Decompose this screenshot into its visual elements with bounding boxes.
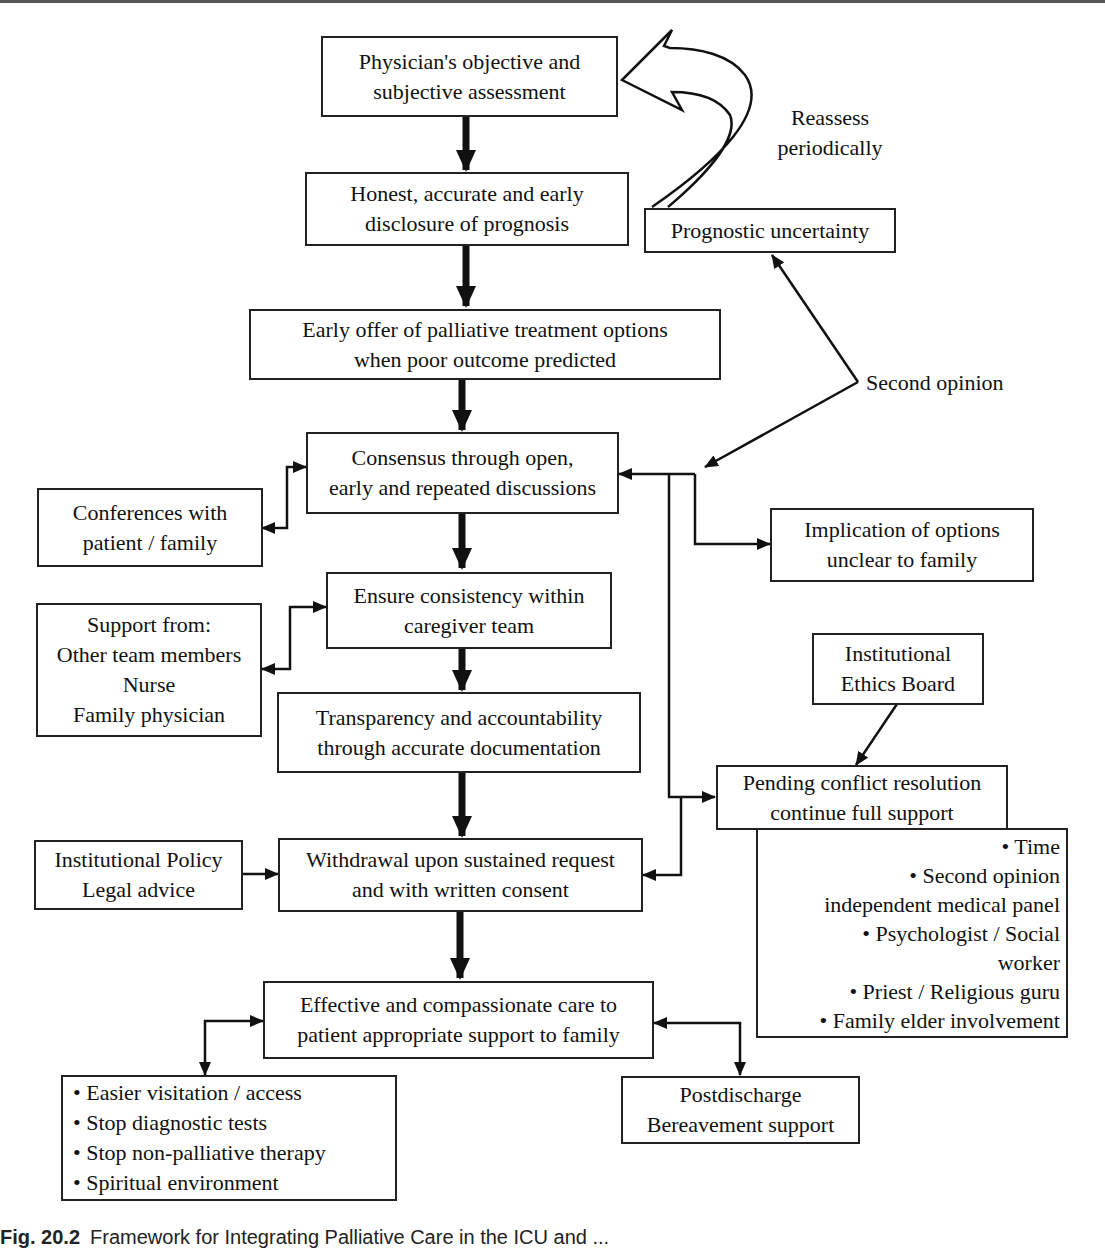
label-reassess-periodically: Reassess periodically	[765, 103, 895, 163]
label-text: periodically	[765, 133, 895, 163]
node-text: Ethics Board	[841, 669, 955, 699]
node-text: Ensure consistency within	[354, 581, 585, 611]
node-text: Consensus through open,	[352, 443, 574, 473]
node-text: Effective and compassionate care to	[300, 990, 617, 1020]
list-item: • Stop diagnostic tests	[73, 1108, 267, 1138]
node-text: Transparency and accountability	[316, 703, 602, 733]
node-physician-assessment: Physician's objective and subjective ass…	[321, 36, 618, 117]
node-institutional-policy: Institutional Policy Legal advice	[34, 840, 243, 910]
list-item: independent medical panel	[824, 890, 1060, 919]
node-text: Withdrawal upon sustained request	[306, 845, 615, 875]
node-text: when poor outcome predicted	[354, 345, 616, 375]
list-item: worker	[998, 948, 1060, 977]
node-prognosis-disclosure: Honest, accurate and early disclosure of…	[305, 172, 629, 246]
node-compassionate-care: Effective and compassionate care to pati…	[263, 981, 654, 1059]
label-text: Reassess	[765, 103, 895, 133]
node-text: Support from:	[87, 610, 211, 640]
node-text: and with written consent	[352, 875, 569, 905]
node-conferences: Conferences with patient / family	[37, 488, 263, 567]
node-ensure-consistency: Ensure consistency within caregiver team	[326, 572, 612, 649]
node-support-from: Support from: Other team members Nurse F…	[36, 603, 262, 737]
node-prognostic-uncertainty: Prognostic uncertainty	[644, 208, 896, 253]
node-text: early and repeated discussions	[329, 473, 596, 503]
node-text: Legal advice	[82, 875, 195, 905]
node-text: Family physician	[73, 700, 225, 730]
list-item: • Psychologist / Social	[862, 919, 1060, 948]
list-item: • Family elder involvement	[820, 1006, 1061, 1035]
node-ethics-board: Institutional Ethics Board	[812, 633, 984, 705]
node-text: Institutional Policy	[54, 845, 222, 875]
figure-caption-text: Framework for Integrating Palliative Car…	[90, 1226, 609, 1248]
label-text: Second opinion	[866, 370, 1004, 395]
node-text: disclosure of prognosis	[365, 209, 569, 239]
node-text: unclear to family	[827, 545, 977, 575]
node-transparency: Transparency and accountability through …	[277, 692, 641, 773]
node-text: patient / family	[83, 528, 217, 558]
node-text: Implication of options	[804, 515, 1000, 545]
label-second-opinion: Second opinion	[866, 368, 1004, 398]
node-text: Bereavement support	[647, 1110, 835, 1140]
node-text: Honest, accurate and early	[350, 179, 583, 209]
node-text: Institutional	[845, 639, 951, 669]
node-text: Conferences with	[73, 498, 228, 528]
node-text: Prognostic uncertainty	[671, 216, 870, 246]
list-item: • Stop non-palliative therapy	[73, 1138, 326, 1168]
node-consensus: Consensus through open, early and repeat…	[306, 432, 619, 514]
node-text: Other team members	[57, 640, 242, 670]
node-implication-unclear: Implication of options unclear to family	[770, 508, 1034, 582]
node-text: Pending conflict resolution	[743, 768, 981, 798]
node-postdischarge: Postdischarge Bereavement support	[621, 1076, 860, 1144]
node-text: caregiver team	[404, 611, 534, 641]
node-text: Nurse	[123, 670, 176, 700]
list-item: • Easier visitation / access	[73, 1078, 302, 1108]
list-item: • Spiritual environment	[73, 1168, 279, 1198]
node-pending-conflict: Pending conflict resolution continue ful…	[716, 765, 1008, 830]
node-palliative-offer: Early offer of palliative treatment opti…	[249, 309, 721, 380]
list-item: • Priest / Religious guru	[849, 977, 1060, 1006]
list-item: • Second opinion	[909, 861, 1060, 890]
node-text: subjective assessment	[373, 77, 565, 107]
node-text: Postdischarge	[680, 1080, 802, 1110]
list-item: • Time	[1002, 832, 1060, 861]
node-text: Early offer of palliative treatment opti…	[302, 315, 668, 345]
node-withdrawal: Withdrawal upon sustained request and wi…	[278, 838, 643, 912]
figure-number: Fig. 20.2	[0, 1226, 80, 1248]
node-care-actions-list: • Easier visitation / access • Stop diag…	[61, 1075, 397, 1201]
node-text: Physician's objective and	[359, 47, 580, 77]
node-text: through accurate documentation	[317, 733, 600, 763]
node-pending-support-list: • Time • Second opinion independent medi…	[756, 828, 1068, 1038]
node-text: continue full support	[770, 798, 953, 828]
figure-caption: Fig. 20.2Framework for Integrating Palli…	[0, 1226, 609, 1249]
node-text: patient appropriate support to family	[297, 1020, 620, 1050]
